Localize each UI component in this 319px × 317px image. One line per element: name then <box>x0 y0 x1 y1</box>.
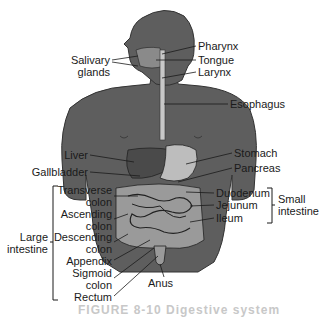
label-ileum: Ileum <box>216 212 243 224</box>
label-liver: Liver <box>40 149 88 161</box>
label-sigmoid-colon: Sigmoid colon <box>52 267 112 291</box>
label-rectum: Rectum <box>52 291 112 303</box>
label-gallbladder: Gallbladder <box>20 166 88 178</box>
label-tongue: Tongue <box>198 54 234 66</box>
label-transverse-colon: Transverse colon <box>52 184 112 208</box>
label-duodenum: Duodenum <box>216 187 270 199</box>
label-stomach: Stomach <box>234 147 277 159</box>
label-larynx: Larynx <box>198 66 231 78</box>
label-salivary-glands: Salivary glands <box>62 54 110 78</box>
large-intestine <box>116 184 204 248</box>
label-pharynx: Pharynx <box>198 40 238 52</box>
label-ascending-colon: Ascending colon <box>52 208 112 232</box>
label-appendix: Appendix <box>52 255 112 267</box>
esophagus-tube <box>160 50 165 140</box>
group-label-large-intestine: Large intestine <box>0 231 48 255</box>
rectum <box>154 246 166 265</box>
label-anus: Anus <box>148 277 173 289</box>
group-label-small-intestine: Small intestine <box>278 193 319 217</box>
label-descending-colon: Descending colon <box>50 231 112 255</box>
label-jejunum: Jejunum <box>216 199 258 211</box>
label-pancreas: Pancreas <box>234 162 280 174</box>
figure-caption: FIGURE 8-10 Digestive system <box>78 303 280 317</box>
label-esophagus: Esophagus <box>230 98 285 110</box>
